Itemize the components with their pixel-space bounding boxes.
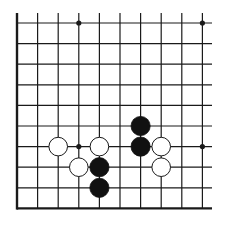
black-stone	[131, 137, 150, 156]
white-stone	[49, 137, 68, 156]
black-stone	[131, 116, 150, 135]
white-stone	[90, 137, 109, 156]
go-board	[0, 0, 226, 227]
white-stone	[70, 158, 89, 177]
star-point	[76, 20, 81, 25]
black-stone	[90, 158, 109, 177]
star-point	[76, 144, 81, 149]
star-point	[200, 144, 205, 149]
white-stone	[152, 137, 171, 156]
star-point	[200, 20, 205, 25]
white-stone	[152, 158, 171, 177]
board-grid	[17, 13, 212, 210]
stones-layer	[49, 116, 171, 197]
black-stone	[90, 178, 109, 197]
